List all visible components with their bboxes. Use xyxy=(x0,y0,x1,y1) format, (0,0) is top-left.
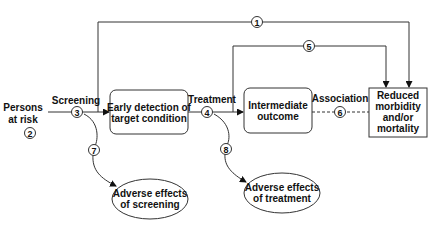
adverse-screening-line2: of screening xyxy=(120,199,179,210)
node-persons-at-risk: Persons at risk 2 xyxy=(3,102,43,139)
reduced-line3: and/or xyxy=(383,112,414,123)
early-detection-line1: Early detection of xyxy=(107,102,192,113)
intermediate-line1: Intermediate xyxy=(248,100,308,111)
kq6-number: 6 xyxy=(337,108,342,118)
kq8-marker: 8 xyxy=(221,144,232,155)
kq3-number: 3 xyxy=(74,108,79,118)
kq5-marker: 5 xyxy=(304,41,315,52)
kq7-number: 7 xyxy=(91,146,96,156)
kq3-marker: 3 xyxy=(72,107,83,118)
reduced-line4: mortality xyxy=(377,123,420,134)
kq2-number: 2 xyxy=(27,129,32,139)
kq4-number: 4 xyxy=(204,108,209,118)
reduced-line2: morbidity xyxy=(375,101,421,112)
node-intermediate-outcome: Intermediate outcome xyxy=(244,88,312,133)
adverse-treatment-line2: of treatment xyxy=(253,193,311,204)
kq8-number: 8 xyxy=(223,145,228,155)
treatment-label: Treatment xyxy=(188,94,236,105)
screening-label: Screening xyxy=(52,95,100,106)
adverse-treatment-line1: Adverse effects xyxy=(245,182,320,193)
adverse-screening-line1: Adverse effects xyxy=(113,188,188,199)
kq6-marker: 6 xyxy=(335,107,346,118)
reduced-line1: Reduced xyxy=(377,90,419,101)
kq7-marker: 7 xyxy=(89,145,100,156)
association-label: Association xyxy=(312,93,369,104)
node-early-detection: Early detection of target condition xyxy=(107,90,192,134)
analytic-framework-diagram: Persons at risk 2 Screening 3 Early dete… xyxy=(0,0,440,227)
intermediate-line2: outcome xyxy=(257,111,299,122)
kq5-number: 5 xyxy=(306,42,311,52)
kq1-number: 1 xyxy=(254,18,259,28)
kq1-marker: 1 xyxy=(252,17,263,28)
persons-label-line2: at risk xyxy=(8,114,38,125)
early-detection-line2: target condition xyxy=(111,113,187,124)
persons-label-line1: Persons xyxy=(3,102,43,113)
node-adverse-effects-treatment: Adverse effects of treatment xyxy=(244,173,320,213)
node-reduced-morbidity-mortality: Reduced morbidity and/or mortality xyxy=(369,88,427,137)
node-adverse-effects-screening: Adverse effects of screening xyxy=(112,179,188,219)
kq4-marker: 4 xyxy=(202,107,213,118)
